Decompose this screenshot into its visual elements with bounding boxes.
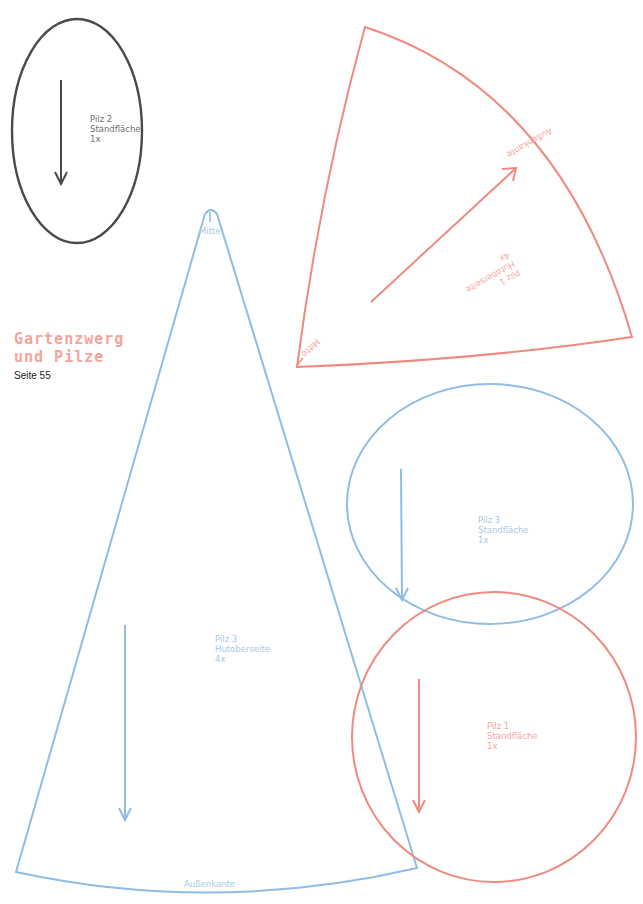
- grainline-arrow-icon: [55, 80, 67, 184]
- pilz3-base-label: Pilz 3 Standfläche 1x: [478, 515, 529, 545]
- grainline-arrow-icon: [396, 469, 408, 600]
- pilz3-cap-top-piece: [16, 210, 417, 893]
- page-title: Gartenzwerg und Pilze: [14, 330, 124, 366]
- pilz2-base-label: Pilz 2 Standfläche 1x: [90, 114, 141, 144]
- piece-count: 1x: [90, 134, 141, 144]
- piece-count: 1x: [478, 535, 529, 545]
- piece-part: Standfläche: [90, 124, 141, 134]
- piece-part: Standfläche: [487, 731, 538, 741]
- grainline-arrow-icon: [119, 625, 131, 820]
- pilz3-cap-center-label: Mitte: [199, 226, 221, 236]
- piece-name: Pilz 3: [215, 634, 270, 644]
- piece-count: 1x: [487, 741, 538, 751]
- piece-name: Pilz 3: [478, 515, 529, 525]
- piece-part: Standfläche: [478, 525, 529, 535]
- piece-name: Pilz 2: [90, 114, 141, 124]
- pilz3-cap-outer-edge-label: Außenkante: [184, 879, 235, 889]
- pilz3-base-piece: [347, 384, 633, 624]
- title-line-2: und Pilze: [14, 348, 124, 366]
- piece-count: 4x: [215, 654, 270, 664]
- page-reference: Seite 55: [14, 370, 51, 381]
- piece-name: Pilz 1: [487, 721, 538, 731]
- pilz3-cap-top-label: Pilz 3 Hutoberseite 4x: [215, 634, 270, 664]
- pilz1-cap-top-piece: [297, 27, 632, 367]
- pilz1-base-label: Pilz 1 Standfläche 1x: [487, 721, 538, 751]
- piece-part: Hutoberseite: [215, 644, 270, 654]
- grainline-arrow-icon: [413, 679, 425, 812]
- title-line-1: Gartenzwerg: [14, 330, 124, 348]
